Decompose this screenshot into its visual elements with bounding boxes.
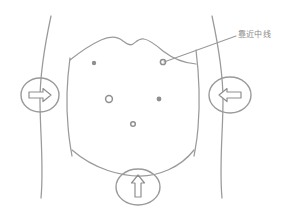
marker-upper-left [92,61,96,65]
left-inner-torso-edge [67,58,72,156]
right-indicator[interactable] [209,77,251,113]
pelvic-curve [72,150,194,176]
midline-annotation-label: 靠近中线 [238,30,271,40]
costal-margin [70,37,196,64]
right-inner-torso-edge [194,50,199,156]
marker-mid-left [106,96,113,103]
marker-lower-center [131,122,136,127]
leader-line [164,36,236,62]
arrow-up-icon [132,175,145,197]
marker-mid-right [157,97,162,102]
left-body-outline [40,16,51,198]
abdomen-landmark-diagram: .ln { fill: none; stroke: #9a9a9a; strok… [0,0,295,211]
landmark-markers [92,59,166,126]
annotation-leader-line [164,36,236,62]
body-contours [40,16,223,198]
bottom-indicator[interactable] [116,169,160,205]
